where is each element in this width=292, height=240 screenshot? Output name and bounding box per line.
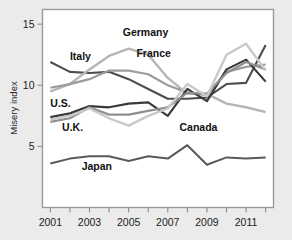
y-tick-label: 5 [29,140,35,152]
series-label-us: U.S. [50,97,71,109]
y-axis-title: Misery index [8,81,19,135]
x-tick-label: 2005 [117,216,141,228]
series-label-uk: U.K. [62,121,83,133]
x-tick-label: 2001 [39,216,63,228]
series-label-france: France [136,47,171,59]
x-tick-label: 2009 [195,216,219,228]
y-tick-label: 15 [23,18,35,30]
series-label-germany: Germany [123,26,169,38]
y-tick-label: 10 [23,79,35,91]
series-label-japan: Japan [82,160,112,172]
series-label-canada: Canada [180,121,218,133]
series-label-italy: Italy [70,50,91,62]
misery-index-line-chart: 51015 200120032005200720092011 ItalyGerm… [0,0,292,240]
x-tick-label: 2007 [156,216,180,228]
x-tick-label: 2011 [235,216,258,228]
x-tick-label: 2003 [78,216,102,228]
